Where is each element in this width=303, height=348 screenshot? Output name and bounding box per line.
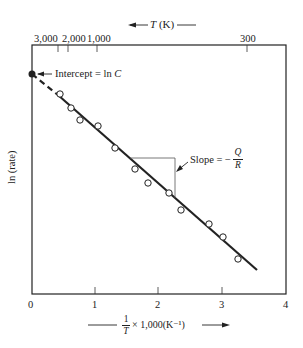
- x-tick-0: 0: [28, 300, 33, 311]
- slope-annotation: Slope = −: [190, 155, 231, 166]
- x-tick-1: 1: [92, 300, 97, 311]
- xlabel-denominator: T: [122, 327, 130, 337]
- x-tick-4: 4: [283, 300, 288, 311]
- top-tick-1000: 1,000: [87, 34, 111, 45]
- xlabel-numerator: 1: [122, 315, 130, 325]
- data-points: [57, 91, 241, 262]
- xlabel-rest: × 1,000(K⁻¹): [132, 320, 185, 330]
- chart-canvas: [0, 0, 303, 348]
- y-axis-label: ln (rate): [7, 150, 18, 184]
- x-tick-2: 2: [155, 300, 160, 311]
- slope-arrow: [176, 162, 188, 172]
- top-axis-ticks: [58, 45, 247, 52]
- intercept-annotation: Intercept = ln C: [55, 69, 121, 80]
- top-axis-label: T (K): [150, 19, 174, 30]
- slope-denominator: R: [233, 161, 243, 171]
- intercept-point: [29, 71, 36, 78]
- x-axis-ticks: [95, 287, 222, 294]
- slope-prefix: Slope = −: [190, 154, 231, 165]
- top-tick-3000: 3,000: [34, 34, 58, 45]
- slope-numerator: Q: [233, 148, 243, 158]
- top-tick-2000: 2,000: [62, 34, 86, 45]
- x-tick-3: 3: [219, 300, 224, 311]
- plot-frame: [32, 45, 286, 294]
- fit-line: [58, 95, 257, 270]
- intercept-arrow: [37, 72, 52, 77]
- top-tick-300: 300: [240, 34, 256, 45]
